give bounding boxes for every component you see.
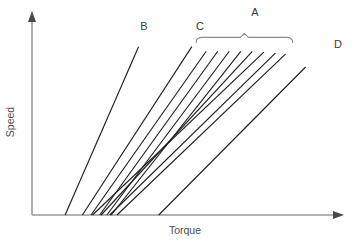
series-label-b: B bbox=[140, 20, 147, 32]
chart-canvas: Torque Speed B C D A bbox=[0, 0, 352, 247]
series-label-d: D bbox=[334, 38, 342, 50]
data-line-line-a-2 bbox=[100, 51, 218, 215]
y-axis-label: Speed bbox=[4, 107, 16, 138]
x-axis-arrowhead bbox=[333, 211, 344, 219]
series-label-c: C bbox=[196, 20, 204, 32]
data-line-line-a-8 bbox=[117, 54, 285, 215]
data-line-line-a-1 bbox=[91, 51, 206, 215]
series-layer bbox=[65, 47, 305, 215]
data-line-line-a-6 bbox=[92, 52, 263, 215]
data-line-d bbox=[159, 67, 306, 215]
group-brace-A bbox=[196, 33, 292, 42]
group-label-a: A bbox=[251, 6, 259, 18]
y-axis-arrowhead bbox=[28, 11, 36, 22]
x-axis-label: Torque bbox=[169, 224, 201, 236]
data-line-c bbox=[82, 47, 191, 215]
data-line-line-a-5 bbox=[101, 51, 252, 215]
brace-group-a bbox=[196, 33, 292, 42]
torque-speed-figure: Torque Speed B C D A bbox=[0, 0, 352, 247]
data-line-b bbox=[65, 47, 138, 215]
